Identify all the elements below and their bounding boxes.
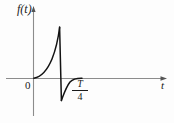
fraction-numerator: T bbox=[72, 79, 88, 90]
waveform-plot bbox=[0, 0, 174, 123]
y-axis-arrowhead bbox=[31, 6, 35, 12]
x-axis-label: t bbox=[161, 80, 164, 91]
curve-vertical-drop bbox=[60, 27, 62, 101]
curve-rising-segment bbox=[34, 28, 60, 79]
figure-container: f(t) 0 T 4 t bbox=[0, 0, 174, 123]
origin-label: 0 bbox=[25, 80, 31, 91]
tick-label-t-over-4: T 4 bbox=[72, 79, 88, 102]
y-axis-label: f(t) bbox=[17, 3, 32, 15]
fraction-denominator: 4 bbox=[72, 92, 88, 103]
